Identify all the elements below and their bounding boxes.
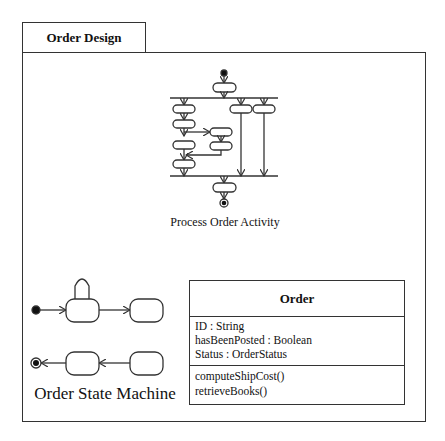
- activity-node-start: [213, 83, 236, 92]
- attribute-status: Status : OrderStatus: [195, 347, 404, 361]
- activity-node-end: [213, 183, 236, 192]
- activity-node-left-2: [173, 120, 195, 128]
- activity-node-left-4: [173, 160, 195, 168]
- class-operations: computeShipCost() retrieveBooks(): [190, 366, 404, 399]
- state-2: [130, 299, 163, 322]
- activity-node-right-1: [230, 105, 252, 113]
- activity-diagram: [170, 70, 278, 207]
- activity-node-left-1: [173, 105, 195, 113]
- class-attributes: ID : String hasBeenPosted : Boolean Stat…: [190, 317, 404, 366]
- activity-initial-node: [221, 70, 227, 76]
- class-name: Order: [190, 281, 404, 317]
- state-3: [130, 352, 163, 375]
- activity-caption: Process Order Activity: [150, 215, 300, 230]
- state-machine-caption: Order State Machine: [25, 384, 185, 404]
- operation-compute-ship-cost: computeShipCost(): [195, 369, 404, 384]
- activity-node-mid-2: [210, 142, 232, 150]
- activity-node-right-2: [253, 105, 275, 113]
- state-initial-node: [32, 306, 40, 314]
- activity-node-left-3: [173, 141, 195, 149]
- state-4: [66, 352, 99, 375]
- attribute-id: ID : String: [195, 319, 404, 333]
- state-machine-diagram: [31, 279, 163, 375]
- attribute-has-been-posted: hasBeenPosted : Boolean: [195, 333, 404, 347]
- activity-node-mid-1: [210, 128, 232, 136]
- state-1: [66, 299, 99, 322]
- class-order: Order ID : String hasBeenPosted : Boolea…: [189, 280, 405, 405]
- self-transition: [75, 279, 89, 299]
- operation-retrieve-books: retrieveBooks(): [195, 384, 404, 399]
